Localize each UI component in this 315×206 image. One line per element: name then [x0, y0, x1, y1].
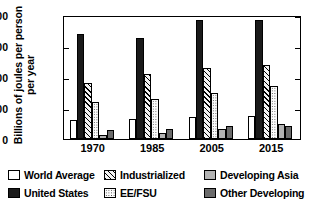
- bar-industrialized-1985: [144, 74, 151, 139]
- legend-swatch-icon: [104, 170, 116, 180]
- bar-developing-asia-1985: [159, 133, 166, 139]
- legend-item-industrialized[interactable]: Industrialized: [104, 169, 204, 181]
- bar-industrialized-1970: [84, 83, 91, 139]
- bar-united-states-1985: [136, 38, 143, 139]
- bar-ee-fsu-2015: [270, 86, 277, 139]
- legend-item-united-states[interactable]: United States: [8, 187, 104, 199]
- bar-ee-fsu-2005: [211, 93, 218, 140]
- bar-industrialized-2015: [263, 65, 270, 139]
- x-tick-label: 2015: [241, 142, 301, 154]
- legend-label: Industrialized: [120, 169, 185, 181]
- bar-united-states-2015: [255, 20, 262, 139]
- legend-label: EE/FSU: [120, 187, 157, 199]
- y-tick-label: 100: [0, 103, 8, 115]
- x-tick-label: 2005: [182, 142, 242, 154]
- bar-groups: [64, 17, 300, 139]
- legend-swatch-icon: [204, 170, 216, 180]
- legend-item-world-average[interactable]: World Average: [8, 169, 104, 181]
- y-tick-label: 400: [0, 10, 8, 22]
- bar-world-average-2015: [248, 116, 255, 139]
- legend-label: World Average: [24, 169, 95, 181]
- bar-group: [243, 17, 303, 139]
- bar-ee-fsu-1985: [151, 99, 158, 139]
- legend-swatch-icon: [204, 188, 216, 198]
- legend-label: United States: [24, 187, 89, 199]
- bar-developing-asia-1970: [99, 135, 106, 139]
- bar-other-developing-1970: [107, 130, 114, 139]
- legend-swatch-icon: [8, 170, 20, 180]
- bar-united-states-1970: [77, 34, 84, 139]
- bar-world-average-1970: [70, 120, 77, 139]
- bar-world-average-2005: [189, 117, 196, 139]
- x-tick-label: 1985: [122, 142, 182, 154]
- legend-item-other-developing[interactable]: Other Developing: [204, 187, 310, 199]
- bar-group: [183, 17, 243, 139]
- legend-item-ee-fsu[interactable]: EE/FSU: [104, 187, 204, 199]
- legend-item-developing-asia[interactable]: Developing Asia: [204, 169, 310, 181]
- y-tick-label: 300: [0, 41, 8, 53]
- bar-developing-asia-2015: [278, 124, 285, 139]
- bar-united-states-2005: [196, 20, 203, 139]
- bar-other-developing-2015: [285, 126, 292, 139]
- plot-area: [63, 16, 301, 140]
- bar-other-developing-2005: [226, 126, 233, 139]
- bar-group: [64, 17, 124, 139]
- bar-world-average-1985: [129, 119, 136, 139]
- bar-developing-asia-2005: [218, 129, 225, 139]
- bar-other-developing-1985: [166, 129, 173, 139]
- bar-ee-fsu-1970: [92, 102, 99, 139]
- legend-label: Other Developing: [220, 187, 304, 199]
- legend-label: Developing Asia: [220, 169, 298, 181]
- legend-swatch-icon: [104, 188, 116, 198]
- y-tick-label: 200: [0, 72, 8, 84]
- chart-legend: World AverageIndustrializedDeveloping As…: [8, 166, 310, 202]
- legend-swatch-icon: [8, 188, 20, 198]
- y-tick-label: 0: [2, 134, 8, 146]
- bar-industrialized-2005: [203, 68, 210, 139]
- energy-use-bar-chart: Billions of joules per person per year W…: [0, 0, 315, 206]
- x-tick-label: 1970: [63, 142, 123, 154]
- bar-group: [124, 17, 184, 139]
- y-axis-title: Billions of joules per person per year: [12, 5, 36, 145]
